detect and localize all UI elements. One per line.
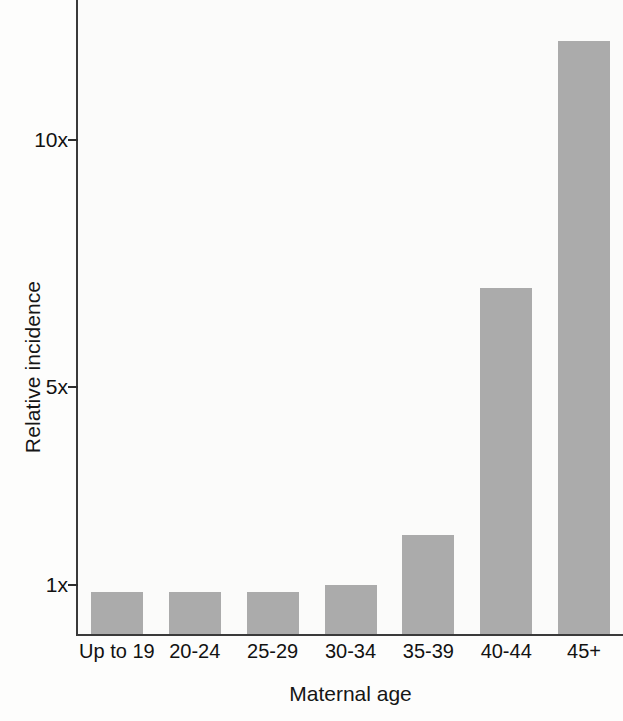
x-axis-line bbox=[76, 634, 623, 636]
x-tick-label: 20-24 bbox=[150, 640, 240, 663]
x-axis-tick-labels: Up to 1920-2425-2930-3435-3940-4445+ bbox=[78, 640, 623, 672]
bar bbox=[402, 535, 454, 634]
bar bbox=[91, 592, 143, 634]
y-tick-label: 10x bbox=[10, 129, 68, 150]
bar-chart-figure: Relative incidence 1x5x10x Up to 1920-24… bbox=[0, 0, 623, 721]
x-tick-label: 30-34 bbox=[306, 640, 396, 663]
y-tick-mark bbox=[68, 139, 78, 141]
bar bbox=[558, 41, 610, 634]
bar bbox=[480, 288, 532, 634]
x-tick-label: 40-44 bbox=[461, 640, 551, 663]
x-tick-label: 35-39 bbox=[383, 640, 473, 663]
bar bbox=[325, 585, 377, 634]
plot-area bbox=[78, 0, 623, 634]
y-tick-label: 1x bbox=[10, 574, 68, 595]
x-tick-label: 45+ bbox=[539, 640, 623, 663]
x-axis-title: Maternal age bbox=[78, 682, 623, 706]
y-tick-mark bbox=[68, 386, 78, 388]
y-tick-label: 5x bbox=[10, 376, 68, 397]
bar bbox=[169, 592, 221, 634]
bar bbox=[247, 592, 299, 634]
x-tick-label: 25-29 bbox=[228, 640, 318, 663]
y-tick-mark bbox=[68, 584, 78, 586]
y-axis-tick-labels: 1x5x10x bbox=[8, 0, 68, 721]
x-tick-label: Up to 19 bbox=[72, 640, 162, 663]
